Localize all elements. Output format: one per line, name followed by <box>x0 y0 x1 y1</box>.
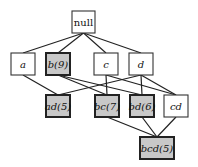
itemset-lattice-diagram: nullab(9)cdad(5)bc(7)bd(6)cdbcd(5) <box>0 0 198 167</box>
edge-null-d <box>84 33 142 53</box>
node-label: bcd(5) <box>141 143 174 154</box>
edge-null-b <box>58 33 84 53</box>
node-label: c <box>103 59 109 70</box>
node-label: cd <box>170 101 182 112</box>
node-label: null <box>74 17 93 28</box>
edge-cd-bcd <box>157 117 176 137</box>
node-label: ad(5) <box>45 101 72 112</box>
node-d: d <box>129 53 153 75</box>
node-bd: bd(6) <box>129 95 156 117</box>
edge-a-ad <box>23 75 58 95</box>
node-null: null <box>72 11 95 33</box>
node-label: a <box>20 59 26 70</box>
node-bc: bc(7) <box>94 95 120 117</box>
node-c: c <box>94 53 118 75</box>
edge-d-cd <box>141 75 176 95</box>
node-bcd: bcd(5) <box>140 137 174 159</box>
node-ad: ad(5) <box>45 95 72 117</box>
lattice-edges <box>23 33 176 137</box>
node-cd: cd <box>164 95 188 117</box>
edge-null-c <box>84 33 107 53</box>
edge-c-bc <box>106 75 107 95</box>
node-label: b(9) <box>48 59 69 70</box>
node-b: b(9) <box>46 53 70 75</box>
node-label: d <box>138 59 144 70</box>
node-label: bd(6) <box>129 101 156 112</box>
node-a: a <box>11 53 35 75</box>
node-label: bc(7) <box>94 101 120 112</box>
edge-null-a <box>23 33 84 53</box>
